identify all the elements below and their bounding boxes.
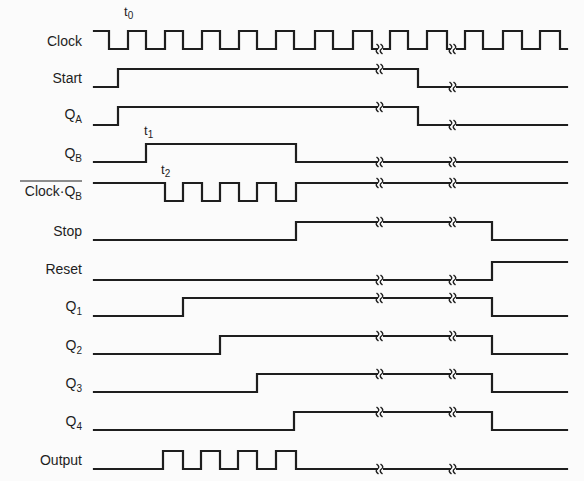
break-mark-icon: [453, 293, 456, 303]
break-mark-icon: [380, 293, 383, 303]
signal-label-q3: Q3: [66, 375, 83, 394]
break-mark-icon: [376, 178, 379, 188]
break-mark-icon: [449, 178, 452, 188]
break-mark-icon: [380, 331, 383, 341]
signal-label-start: Start: [52, 70, 82, 86]
waveform-q3: [94, 374, 567, 392]
waveform-q2: [94, 336, 567, 354]
break-mark-icon: [453, 82, 456, 92]
waveforms: [94, 31, 567, 469]
break-mark-icon: [453, 407, 456, 417]
break-mark-icon: [449, 217, 452, 227]
waveform-clock: [94, 31, 567, 49]
waveform-q1: [94, 298, 567, 316]
break-mark-icon: [449, 464, 452, 474]
break-mark-icon: [453, 178, 456, 188]
break-mark-icon: [449, 275, 452, 285]
timing-diagram: ClockStartQAQBClock·QBStopResetQ1Q2Q3Q4O…: [0, 0, 584, 481]
waveform-qb: [94, 144, 567, 162]
break-mark-icon: [380, 217, 383, 227]
waveform-qa: [94, 107, 567, 125]
waveform-start: [94, 69, 567, 87]
break-mark-icon: [449, 369, 452, 379]
signal-label-reset: Reset: [45, 261, 82, 277]
time-marker-t2: t2: [161, 162, 171, 179]
break-mark-icon: [376, 275, 379, 285]
signal-label-stop: Stop: [53, 223, 82, 239]
signal-label-q1: Q1: [66, 298, 83, 317]
waveform-q4: [94, 412, 567, 430]
break-mark-icon: [380, 157, 383, 167]
break-mark-icon: [453, 120, 456, 130]
break-mark-icon: [453, 275, 456, 285]
break-mark-icon: [376, 464, 379, 474]
break-mark-icon: [376, 331, 379, 341]
break-mark-icon: [380, 44, 383, 54]
break-mark-icon: [453, 157, 456, 167]
break-mark-icon: [380, 464, 383, 474]
break-mark-icon: [380, 407, 383, 417]
break-mark-icon: [376, 217, 379, 227]
break-mark-icon: [376, 293, 379, 303]
signal-label-qb: QB: [64, 145, 82, 164]
break-mark-icon: [453, 44, 456, 54]
waveform-clock-qb: [94, 183, 567, 201]
break-mark-icon: [376, 102, 379, 112]
signal-label-clock-qb: Clock·QB: [25, 183, 83, 202]
break-marks: [376, 44, 456, 474]
break-mark-icon: [449, 331, 452, 341]
break-mark-icon: [376, 407, 379, 417]
break-mark-icon: [380, 369, 383, 379]
break-mark-icon: [453, 217, 456, 227]
signal-label-clock: Clock: [47, 33, 83, 49]
signal-labels: ClockStartQAQBClock·QBStopResetQ1Q2Q3Q4O…: [20, 33, 83, 468]
waveform-output: [94, 451, 567, 469]
break-mark-icon: [453, 369, 456, 379]
signal-label-output: Output: [40, 452, 82, 468]
break-mark-icon: [380, 102, 383, 112]
waveform-reset: [94, 262, 567, 280]
time-marker-t1: t1: [144, 123, 154, 140]
waveform-stop: [94, 222, 567, 240]
break-mark-icon: [380, 275, 383, 285]
break-mark-icon: [376, 64, 379, 74]
break-mark-icon: [453, 464, 456, 474]
break-mark-icon: [449, 293, 452, 303]
timing-diagram-canvas: ClockStartQAQBClock·QBStopResetQ1Q2Q3Q4O…: [0, 0, 584, 481]
break-mark-icon: [449, 157, 452, 167]
break-mark-icon: [376, 157, 379, 167]
break-mark-icon: [449, 44, 452, 54]
break-mark-icon: [376, 44, 379, 54]
break-mark-icon: [453, 331, 456, 341]
break-mark-icon: [449, 82, 452, 92]
time-marker-t0: t0: [124, 4, 134, 21]
signal-label-q2: Q2: [66, 337, 83, 356]
signal-label-q4: Q4: [66, 413, 83, 432]
break-mark-icon: [380, 64, 383, 74]
signal-label-qa: QA: [64, 106, 82, 125]
break-mark-icon: [449, 407, 452, 417]
break-mark-icon: [449, 120, 452, 130]
break-mark-icon: [376, 369, 379, 379]
break-mark-icon: [380, 178, 383, 188]
